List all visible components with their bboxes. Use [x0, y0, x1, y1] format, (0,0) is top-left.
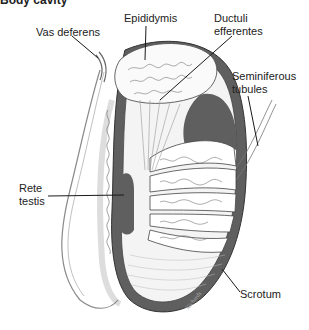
rete-line-1: Rete — [19, 182, 45, 195]
label-ductuli-efferentes: Ductuli efferentes — [214, 12, 263, 38]
label-vas-deferens: Vas deferens — [36, 26, 100, 39]
label-rete-testis: Rete testis — [19, 182, 45, 208]
vas-deferens-tube — [96, 55, 102, 80]
ductuli-line-1: Ductuli — [214, 12, 263, 25]
seminiferous-line-2: tubules — [232, 83, 296, 96]
label-seminiferous-tubules: Seminiferous tubules — [232, 70, 296, 96]
label-epididymis: Epididymis — [124, 12, 177, 25]
label-scrotum: Scrotum — [240, 288, 281, 301]
leader-seminiferous — [248, 96, 258, 146]
rete-line-2: testis — [19, 195, 45, 208]
leader-scrotum — [222, 269, 240, 292]
leader-vas-deferens — [72, 36, 98, 58]
seminiferous-line-1: Seminiferous — [232, 70, 296, 83]
rete-testis — [120, 173, 134, 234]
ductuli-line-2: efferentes — [214, 25, 263, 38]
testis-anatomy-illustration: Richards — [0, 0, 309, 330]
